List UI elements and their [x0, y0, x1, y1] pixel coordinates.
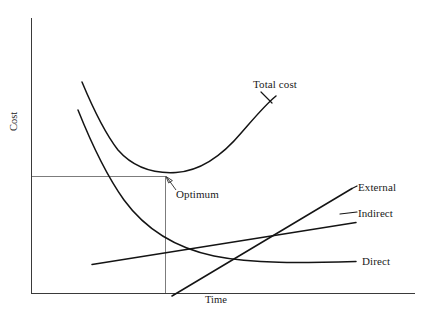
- external-leader-line: [352, 186, 357, 189]
- annotation-label-optimum: Optimum: [176, 189, 219, 200]
- total-cost-curve: [82, 82, 276, 173]
- y-axis-title: Cost: [9, 112, 20, 131]
- indirect-leader-line: [340, 212, 357, 214]
- cost-time-chart: Cost Time Total cost External Indirect D…: [0, 0, 438, 315]
- direct-curve: [78, 110, 356, 263]
- chart-plot-area: [0, 0, 438, 315]
- series-label-indirect: Indirect: [358, 208, 393, 219]
- series-label-external: External: [358, 182, 396, 193]
- series-label-direct: Direct: [362, 256, 390, 267]
- total-cost-leader-line: [261, 92, 272, 103]
- external-line: [172, 189, 352, 297]
- x-axis-title: Time: [205, 295, 227, 306]
- optimum-callout-line: [167, 178, 176, 191]
- series-label-total-cost: Total cost: [253, 79, 297, 90]
- optimum-arrowhead-icon: [166, 177, 172, 183]
